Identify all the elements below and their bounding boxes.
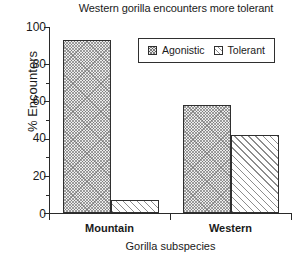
legend-entry-agonistic: Agonistic [148,45,205,56]
bar-mountain-agonistic [63,40,111,213]
bar-mountain-tolerant [111,200,159,213]
y-tick-label-20: 20 [16,171,46,181]
y-tick-label-40: 40 [16,133,46,143]
y-tick-label-60: 60 [16,96,46,106]
y-tick-label-80: 80 [16,59,46,69]
bar-western-agonistic [183,105,231,213]
legend-swatch-tolerant-icon [214,46,223,55]
legend-label-tolerant: Tolerant [228,45,265,56]
legend-entry-tolerant: Tolerant [214,45,265,56]
x-tick-left-edge [49,214,50,220]
x-tick-middle [170,214,171,220]
y-tick-label-100: 100 [16,22,46,32]
y-axis-tick-labels: 100 80 60 40 20 0 [16,0,46,260]
y-tick-label-0: 0 [16,209,46,219]
legend-swatch-agonistic-icon [148,46,157,55]
chart-title: Western gorilla encounters more tolerant [52,1,300,15]
x-axis-title: Gorilla subspecies [49,240,292,252]
legend-label-agonistic: Agonistic [162,45,205,56]
chart-legend: Agonistic Tolerant [138,38,275,63]
bar-western-tolerant [231,135,279,213]
x-category-label-western: Western [170,222,291,234]
x-tick-right-edge [291,214,292,220]
bar-chart-figure: Western gorilla encounters more tolerant… [0,0,304,260]
x-category-label-mountain: Mountain [49,222,170,234]
